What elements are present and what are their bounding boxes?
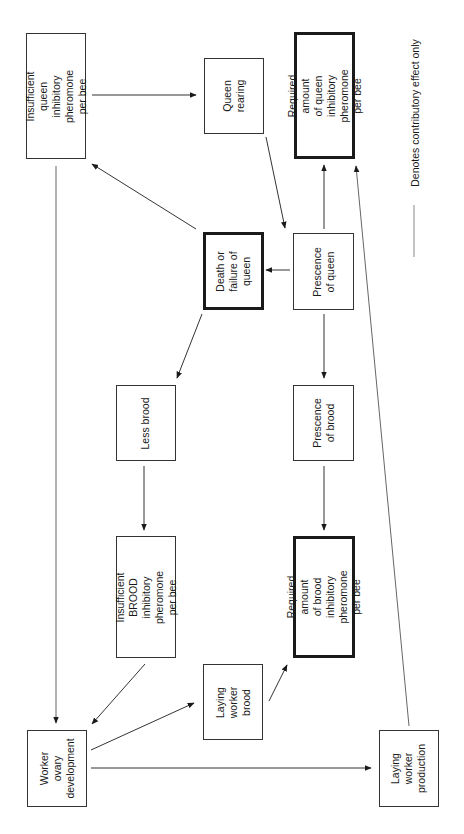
edge-death-failure-to-less-brood	[177, 314, 202, 378]
node-label: Less brood	[139, 397, 152, 449]
node-label: Death or failure of queen	[214, 251, 253, 291]
node-worker-ovary-development: Worker ovary development	[27, 730, 87, 807]
node-death-or-failure-of-queen: Death or failure of queen	[203, 232, 264, 310]
node-label: Insufficient queen inhibitory pheromone …	[24, 67, 89, 125]
edge-laying-worker-production-to-required-queen	[356, 166, 409, 726]
node-less-brood: Less brood	[116, 385, 176, 461]
node-label: Queen rearing	[221, 80, 247, 113]
node-label: Required amount of queen inhibitory pher…	[286, 68, 364, 123]
node-laying-worker-production: Laying worker production	[379, 730, 439, 807]
edge-insufficient-brood-to-worker-ovary	[92, 664, 145, 724]
edge-worker-ovary-to-laying-worker-brood	[91, 703, 194, 750]
node-label: Worker ovary development	[38, 738, 77, 798]
node-label: Prescence of queen	[310, 247, 336, 297]
node-label: Required amount of brood inhibitory pher…	[285, 569, 363, 625]
legend: Denotes contributory effect only	[408, 35, 422, 191]
node-label: Laying worker brood	[214, 673, 253, 731]
node-label: Laying worker production	[389, 744, 428, 793]
edge-queen-rearing-to-presence-queen	[266, 137, 285, 228]
node-insufficient-brood-pheromone: Insufficient BROOD inhibitory pheromone …	[116, 536, 176, 658]
edge-death-failure-to-insufficient-queen	[92, 164, 196, 229]
node-insufficient-queen-pheromone: Insufficient queen inhibitory pheromone …	[26, 33, 86, 159]
node-required-queen-pheromone: Required amount of queen inhibitory pher…	[294, 32, 355, 159]
node-presence-of-brood: Prescence of brood	[293, 385, 354, 461]
node-laying-worker-brood: Laying worker brood	[203, 664, 263, 740]
edge-laying-worker-brood-to-required-brood	[269, 665, 287, 701]
node-queen-rearing: Queen rearing	[204, 58, 264, 134]
node-label: Insufficient BROOD inhibitory pheromone …	[114, 568, 179, 626]
node-presence-of-queen: Prescence of queen	[293, 233, 354, 310]
legend-text: Denotes contributory effect only	[409, 39, 421, 186]
node-label: Prescence of brood	[310, 398, 336, 448]
bee-pheromone-flow-diagram: Insufficient queen inhibitory pheromone …	[0, 0, 464, 834]
node-required-brood-pheromone: Required amount of brood inhibitory pher…	[293, 536, 355, 658]
